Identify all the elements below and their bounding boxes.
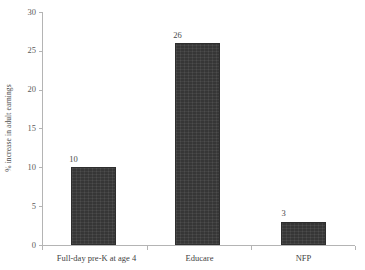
x-tick-mark-2: [251, 246, 252, 250]
x-axis-line: [42, 245, 355, 246]
plot-area: [42, 12, 355, 245]
y-tick-label-30: 30: [14, 8, 36, 17]
y-tick-label-0: 0: [14, 241, 36, 250]
bar-value-full-day-pre-k: 10: [51, 155, 96, 164]
y-tick-label-15: 15: [14, 124, 36, 133]
bar-chart: % increase in adult earnings 30 25 20 15…: [0, 0, 365, 270]
y-tick-label-10: 10: [14, 163, 36, 172]
bar-value-educare: 26: [155, 31, 200, 40]
x-tick-mark-end: [355, 246, 356, 250]
y-tick-label-20: 20: [14, 85, 36, 94]
bar-full-day-pre-k[interactable]: [71, 167, 116, 245]
x-category-label-educare: Educare: [152, 253, 247, 263]
x-tick-mark-start: [42, 246, 43, 250]
x-tick-mark-1: [147, 246, 148, 250]
bar-nfp[interactable]: [281, 222, 326, 245]
bar-value-nfp: 3: [261, 209, 306, 218]
y-tick-label-25: 25: [14, 46, 36, 55]
bar-educare[interactable]: [175, 43, 220, 245]
y-tick-label-5: 5: [14, 202, 36, 211]
cropped-chart-title: [0, 0, 365, 6]
x-category-label-nfp: NFP: [256, 253, 351, 263]
x-category-label-full-day-pre-k: Full-day pre-K at age 4: [34, 253, 159, 263]
